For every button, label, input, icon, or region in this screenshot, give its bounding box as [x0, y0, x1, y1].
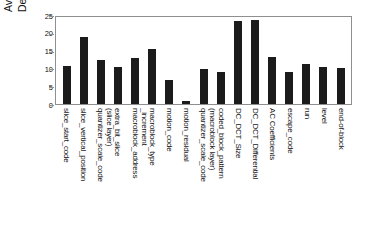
- x-axis-label-slot: DC_DCT_Size: [229, 106, 246, 226]
- bar[interactable]: [251, 20, 259, 104]
- bar[interactable]: [148, 49, 156, 104]
- bar-slot: [229, 17, 246, 104]
- bar-slot: [58, 17, 75, 104]
- x-axis-tick-label: level: [320, 108, 328, 123]
- bar-slot: [144, 17, 161, 104]
- bar-slot: [161, 17, 178, 104]
- bar[interactable]: [200, 69, 208, 104]
- x-axis-label-slot: extra_bit_slice: [109, 106, 126, 226]
- y-axis-tick-mark: [49, 87, 54, 88]
- bar-slot: [298, 17, 315, 104]
- x-axis-tick-label: AC Coefficients: [268, 108, 276, 160]
- x-axis-label-slot: DC_DCT_Differential: [247, 106, 264, 226]
- bar[interactable]: [97, 60, 105, 104]
- bar-slot: [281, 17, 298, 104]
- x-axis-label-slot: quantizer_scale_code(macroblock layer): [195, 106, 212, 226]
- chart-figure: Average PSNR Degradation (dB) 2520151050…: [0, 0, 367, 227]
- x-axis-label-slot: run: [298, 106, 315, 226]
- x-axis-tick-label: DC_DCT_Size: [234, 108, 242, 158]
- x-axis-tick-label: run: [303, 108, 311, 119]
- x-axis-label-slot: coded_block_pattern: [212, 106, 229, 226]
- bar[interactable]: [63, 66, 71, 104]
- x-axis-tick-label: motion_residual: [182, 108, 190, 161]
- x-axis-tick-label: end-of-block: [337, 108, 345, 150]
- bar[interactable]: [80, 37, 88, 104]
- bar[interactable]: [131, 58, 139, 104]
- y-axis-title-line-2: Degradation (dB): [16, 0, 28, 12]
- y-axis-title-line-1: Average PSNR: [2, 0, 14, 12]
- x-axis-label-slot: AC Coefficients: [264, 106, 281, 226]
- x-axis-tick-label: motion_code: [165, 108, 173, 152]
- x-axis-tick-labels: slice_start_codeslice_vertical_positionq…: [55, 106, 352, 226]
- bar[interactable]: [319, 67, 327, 104]
- x-axis-label-slot: macroblock_type: [143, 106, 160, 226]
- y-axis-tick-mark: [49, 69, 54, 70]
- bar[interactable]: [234, 21, 242, 104]
- plot-frame: [55, 16, 352, 105]
- bar-slot: [315, 17, 332, 104]
- bar-slot: [92, 17, 109, 104]
- x-axis-tick-label: quantizer_scale_code: [199, 108, 207, 182]
- bar[interactable]: [285, 72, 293, 104]
- bar[interactable]: [217, 72, 225, 104]
- y-axis-tick-mark: [49, 52, 54, 53]
- x-axis-tick-label: macroblock_type: [148, 108, 156, 165]
- x-axis-tick-label: coded_block_pattern: [217, 108, 225, 178]
- bar[interactable]: [165, 80, 173, 104]
- y-axis-tick-mark: [49, 34, 54, 35]
- bar-slot: [246, 17, 263, 104]
- bar[interactable]: [337, 68, 345, 104]
- bar-slot: [212, 17, 229, 104]
- x-axis-label-slot: slice_start_code: [57, 106, 74, 226]
- x-axis-label-slot: motion_residual: [178, 106, 195, 226]
- x-axis-tick-label: quantizer_scale_code: [96, 108, 104, 182]
- x-axis-label-slot: escape_code: [281, 106, 298, 226]
- x-axis-tick-label: extra_bit_slice: [113, 108, 121, 156]
- bar-slot: [195, 17, 212, 104]
- x-axis-tick-label: slice_start_code: [62, 108, 70, 163]
- bar-slot: [127, 17, 144, 104]
- bar[interactable]: [302, 64, 310, 104]
- x-axis-tick-label: DC_DCT_Differential: [251, 108, 259, 179]
- bar[interactable]: [182, 101, 190, 104]
- bar[interactable]: [268, 57, 276, 104]
- x-axis-label-slot: quantizer_scale_code(slice layer): [91, 106, 108, 226]
- bar-slot: [109, 17, 126, 104]
- y-axis-tick-labels: 2520151050: [36, 11, 54, 111]
- x-axis-tick-label: escape_code: [286, 108, 294, 153]
- bar-slot: [178, 17, 195, 104]
- y-axis-tick-mark: [49, 105, 54, 106]
- x-axis-label-slot: motion_code: [160, 106, 177, 226]
- y-axis-tick-mark: [49, 16, 54, 17]
- bar-slot: [264, 17, 281, 104]
- bar[interactable]: [114, 67, 122, 104]
- x-axis-label-slot: end-of-block: [333, 106, 350, 226]
- x-axis-label-slot: macroblock_address_increment: [126, 106, 143, 226]
- bar-slot: [332, 17, 349, 104]
- x-axis-tick-label: macroblock_address: [131, 108, 139, 178]
- x-axis-tick-label: slice_vertical_position: [79, 108, 87, 181]
- bars-container: [56, 17, 351, 104]
- bar-slot: [75, 17, 92, 104]
- x-axis-label-slot: level: [316, 106, 333, 226]
- x-axis-label-slot: slice_vertical_position: [74, 106, 91, 226]
- y-axis-title: Average PSNR Degradation (dB): [0, 0, 36, 110]
